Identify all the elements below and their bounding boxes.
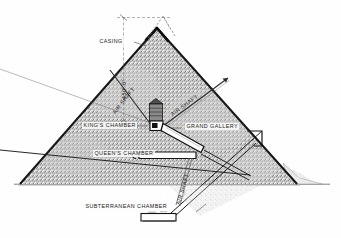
label-casing: CASING bbox=[98, 38, 124, 45]
pyramid-section-drawing bbox=[0, 0, 341, 238]
label-subterranean-chamber: SUBTERRANEAN CHAMBER bbox=[84, 203, 169, 210]
label-grand-gallery: GRAND GALLERY bbox=[185, 123, 239, 130]
pyramid-section-figure: CASING 450'-0" AIR SHAFT AIR SHAFT AIR S… bbox=[0, 0, 341, 238]
kings-chamber-structure bbox=[149, 99, 163, 131]
label-kings-chamber: KING'S CHAMBER bbox=[82, 122, 137, 129]
subterranean-chamber bbox=[141, 212, 176, 221]
label-queens-chamber: QUEEN'S CHAMBER bbox=[93, 150, 155, 157]
